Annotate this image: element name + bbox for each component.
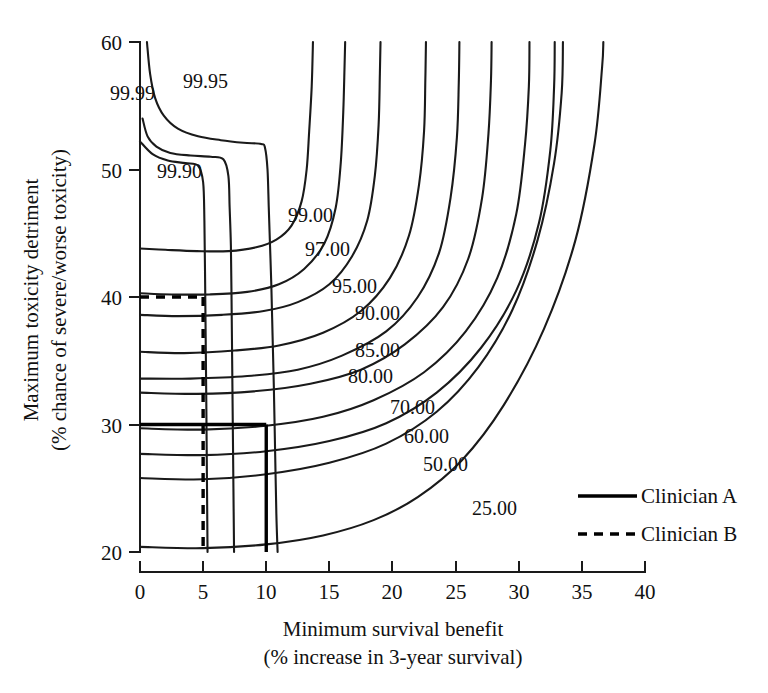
y-tick-label-40: 40 [101, 286, 122, 310]
legend-label-clinician-a: Clinician A [641, 484, 738, 508]
x-axis-title-line1: Minimum survival benefit [283, 617, 504, 641]
legend-label-clinician-b: Clinician B [641, 522, 737, 546]
contour-label-99-90: 99.90 [157, 160, 202, 182]
x-tick-label-15: 15 [319, 580, 340, 604]
y-axis: 60 50 40 30 20 [101, 31, 140, 565]
y-tick-label-30: 30 [101, 414, 122, 438]
contour-label-70-00: 70.00 [390, 396, 435, 418]
y-tick-label-20: 20 [101, 541, 122, 565]
x-tick-label-0: 0 [135, 580, 146, 604]
contour-label-60-00: 60.00 [404, 425, 449, 447]
contour-label-85-00: 85.00 [355, 339, 400, 361]
y-tick-label-60: 60 [101, 31, 122, 55]
contour-chart-figure: 60 50 40 30 20 0 5 10 15 20 25 30 35 40 [0, 0, 768, 693]
contour-label-80-00: 80.00 [348, 365, 393, 387]
x-tick-label-40: 40 [635, 580, 656, 604]
contour-label-99-99: 99.99 [110, 82, 155, 104]
contour-label-99-00: 99.00 [288, 204, 333, 226]
y-axis-title-line2: (% chance of severe/worse toxicity) [47, 149, 71, 451]
x-tick-label-5: 5 [198, 580, 209, 604]
contour-line-70-00 [140, 42, 529, 430]
contour-label-99-95: 99.95 [183, 70, 228, 92]
x-tick-label-20: 20 [382, 580, 403, 604]
contour-line-99-95 [143, 119, 235, 553]
contour-label-50-00: 50.00 [423, 453, 468, 475]
x-tick-label-30: 30 [509, 580, 530, 604]
clinician-threshold-group [140, 297, 266, 552]
y-tick-label-50: 50 [101, 159, 122, 183]
contour-line-group [140, 42, 603, 552]
contour-label-25-00: 25.00 [472, 497, 517, 519]
legend: Clinician A Clinician B [578, 484, 738, 546]
contour-label-95-00: 95.00 [332, 275, 377, 297]
x-tick-label-10: 10 [256, 580, 277, 604]
x-axis: 0 5 10 15 20 25 30 35 40 [135, 562, 656, 604]
chart-canvas: 60 50 40 30 20 0 5 10 15 20 25 30 35 40 [0, 0, 768, 693]
y-axis-title-line1: Maximum toxicity detriment [19, 179, 43, 422]
contour-label-97-00: 97.00 [305, 238, 350, 260]
contour-line-99-90 [140, 141, 208, 552]
contour-label-90-00: 90.00 [355, 302, 400, 324]
x-axis-title-line2: (% increase in 3-year survival) [264, 645, 523, 669]
x-tick-label-35: 35 [572, 580, 593, 604]
x-tick-label-25: 25 [446, 580, 467, 604]
